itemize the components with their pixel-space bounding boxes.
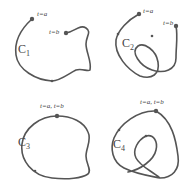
curve-subscript: 4 xyxy=(121,144,125,153)
panel-c3: t=a, t=b C 3 xyxy=(18,102,89,179)
label-t-b: t=b xyxy=(49,28,60,36)
curve-subscript: 2 xyxy=(130,43,134,52)
end-point xyxy=(64,31,68,35)
direction-arrow-icon xyxy=(145,135,148,138)
direction-arrow-icon xyxy=(151,35,154,38)
label-t-a-t-b: t=a, t=b xyxy=(40,102,64,110)
direction-arrow-icon xyxy=(51,80,54,83)
direction-arrow-icon xyxy=(118,129,121,132)
start-point xyxy=(30,17,34,21)
start-point xyxy=(137,12,141,16)
curve-c3 xyxy=(22,116,90,179)
start-end-point xyxy=(55,114,59,118)
curves-diagram: t=a t=b C 1 t=a t=b C 2 t=a, t=b C 3 t=a… xyxy=(0,0,192,180)
label-t-b: t=b xyxy=(163,19,174,27)
panel-c1: t=a t=b C 1 xyxy=(16,10,91,82)
curve-subscript: 1 xyxy=(26,49,30,58)
curve-subscript: 3 xyxy=(26,142,30,151)
panel-c2: t=a t=b C 2 xyxy=(116,7,178,77)
label-t-a-t-b: t=a, t=b xyxy=(140,98,164,106)
end-point xyxy=(174,24,178,28)
label-t-a: t=a xyxy=(37,10,48,18)
curve-name: C xyxy=(18,42,26,56)
panel-c4: t=a, t=b C 4 xyxy=(112,98,178,178)
direction-arrow-icon xyxy=(117,33,120,36)
direction-arrow-icon xyxy=(34,170,37,173)
start-end-point xyxy=(154,109,158,113)
curve-name: C xyxy=(113,137,121,151)
label-t-a: t=a xyxy=(143,7,154,15)
curve-name: C xyxy=(18,135,26,149)
curve-name: C xyxy=(122,36,130,50)
